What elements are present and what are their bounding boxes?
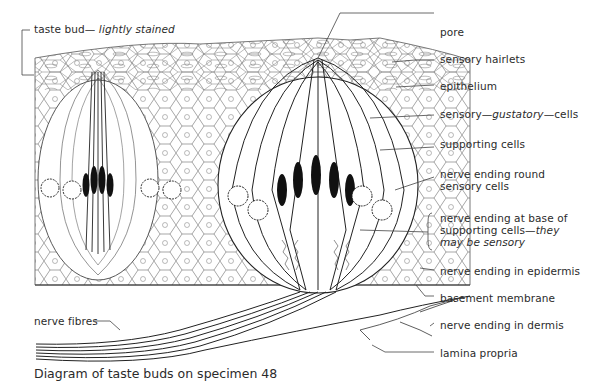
nerve-fibres-bundle: [36, 292, 470, 361]
label-nerve-ending-dermis: nerve ending in dermis: [440, 319, 564, 331]
label-sensory-cells-pre: sensory—: [440, 108, 492, 120]
label-nerve-ending-round: nerve ending round sensory cells: [440, 168, 545, 192]
label-nerve-ending-base-line2: supporting cells—: [440, 224, 536, 236]
label-nerve-ending-base-line3: may be sensory: [440, 236, 567, 248]
label-sensory-cells-post: —cells: [544, 108, 579, 120]
label-sensory-cells-italic: gustatory: [492, 108, 543, 120]
label-nerve-ending-epidermis: nerve ending in epidermis: [440, 265, 580, 277]
label-supporting-cells: supporting cells: [440, 138, 525, 150]
label-pore: pore: [440, 26, 464, 38]
figure-caption: Diagram of taste buds on specimen 48: [34, 366, 277, 381]
label-nerve-ending-base: nerve ending at base of supporting cells…: [440, 212, 567, 248]
label-nerve-ending-round-line2: sensory cells: [440, 180, 545, 192]
label-lamina-propria: lamina propria: [440, 347, 518, 359]
label-taste-bud-text: taste bud—: [34, 23, 99, 35]
label-epithelium: epithelium: [440, 80, 497, 92]
label-sensory-cells: sensory—gustatory—cells: [440, 108, 578, 120]
label-nerve-ending-base-line2-italic: they: [536, 224, 560, 236]
label-taste-bud-note: lightly stained: [99, 23, 175, 35]
label-taste-bud: taste bud— lightly stained: [34, 23, 175, 35]
label-basement-membrane: basement membrane: [440, 292, 555, 304]
label-nerve-ending-round-line1: nerve ending round: [440, 168, 545, 180]
label-nerve-fibres: nerve fibres: [34, 315, 98, 327]
label-nerve-ending-base-line1: nerve ending at base of: [440, 212, 567, 224]
label-sensory-hairlets: sensory hairlets: [440, 53, 525, 65]
